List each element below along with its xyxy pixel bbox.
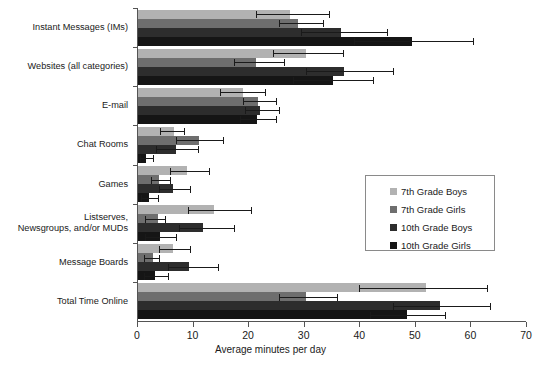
error-bar-cap — [190, 246, 191, 253]
legend-item[interactable]: 10th Grade Girls — [390, 240, 471, 251]
y-axis-tick — [133, 165, 137, 166]
chart-legend: 7th Grade Boys7th Grade Girls10th Grade … — [365, 175, 495, 251]
error-bar-cap — [293, 77, 294, 84]
error-bar-cap — [209, 168, 210, 175]
error-bar — [240, 119, 276, 120]
error-bar-cap — [370, 312, 371, 319]
category-label: Listserves, Newsgroups, and/or MUDs — [0, 212, 128, 234]
legend-label: 7th Grade Boys — [401, 186, 467, 197]
error-bar — [301, 32, 387, 33]
error-bar-cap — [387, 29, 388, 36]
bar — [137, 310, 407, 319]
error-bar-cap — [473, 38, 474, 45]
x-axis-tick-label: 10 — [173, 329, 213, 341]
error-bar-cap — [240, 116, 241, 123]
category-label: Total Time Online — [0, 296, 128, 307]
x-axis-line — [137, 321, 526, 322]
error-bar-cap — [279, 20, 280, 27]
error-bar — [160, 131, 184, 132]
error-bar — [220, 92, 264, 93]
legend-swatch-icon — [390, 188, 397, 195]
error-bar — [144, 258, 160, 259]
error-bar-cap — [165, 216, 166, 223]
error-bar-cap — [393, 68, 394, 75]
error-bar-cap — [276, 98, 277, 105]
error-bar-cap — [158, 195, 159, 202]
error-bar-cap — [170, 168, 171, 175]
category-label: Websites (all categories) — [0, 61, 128, 72]
error-bar-cap — [144, 273, 145, 280]
y-axis-line — [137, 8, 138, 321]
legend-item[interactable]: 10th Grade Boys — [390, 222, 472, 233]
error-bar-cap — [445, 312, 446, 319]
error-bar-cap — [159, 246, 160, 253]
error-bar — [176, 140, 223, 141]
error-bar-cap — [343, 50, 344, 57]
y-axis-tick — [133, 47, 137, 48]
x-axis-tick — [193, 322, 194, 327]
legend-item[interactable]: 7th Grade Girls — [390, 204, 465, 215]
x-axis-tick — [248, 322, 249, 327]
legend-swatch-icon — [390, 206, 397, 213]
legend-swatch-icon — [390, 242, 397, 249]
x-axis-tick-label: 40 — [339, 329, 379, 341]
error-bar-cap — [337, 294, 338, 301]
error-bar-cap — [220, 89, 221, 96]
error-bar — [234, 62, 284, 63]
error-bar-cap — [153, 155, 154, 162]
x-axis-tick — [304, 322, 305, 327]
error-bar — [141, 198, 158, 199]
error-bar — [306, 71, 392, 72]
error-bar — [293, 80, 374, 81]
category-label: Instant Messages (IMs) — [0, 22, 128, 33]
error-bar — [144, 276, 168, 277]
error-bar — [245, 110, 278, 111]
error-bar-cap — [188, 207, 189, 214]
error-bar-cap — [276, 116, 277, 123]
error-bar — [156, 149, 198, 150]
error-bar-cap — [354, 38, 355, 45]
error-bar-cap — [245, 107, 246, 114]
error-bar-cap — [301, 29, 302, 36]
error-bar-cap — [323, 20, 324, 27]
legend-item[interactable]: 7th Grade Boys — [390, 186, 467, 197]
x-axis-tick-label: 60 — [450, 329, 490, 341]
error-bar — [279, 297, 337, 298]
error-bar-cap — [176, 234, 177, 241]
x-axis-tick — [137, 322, 138, 327]
error-bar-cap — [145, 234, 146, 241]
x-axis-tick — [359, 322, 360, 327]
error-bar — [359, 288, 487, 289]
error-bar-cap — [144, 255, 145, 262]
error-bar-cap — [256, 11, 257, 18]
y-axis-tick — [133, 204, 137, 205]
error-bar-cap — [160, 128, 161, 135]
error-bar-cap — [156, 146, 157, 153]
error-bar — [370, 315, 445, 316]
error-bar — [393, 306, 490, 307]
error-bar — [273, 53, 342, 54]
x-axis-tick-label: 70 — [506, 329, 541, 341]
error-bar-cap — [179, 225, 180, 232]
error-bar — [140, 158, 152, 159]
error-bar — [159, 189, 190, 190]
error-bar — [279, 23, 323, 24]
error-bar-cap — [223, 137, 224, 144]
error-bar-cap — [170, 177, 171, 184]
error-bar-cap — [393, 303, 394, 310]
error-bar — [179, 228, 235, 229]
error-bar — [256, 14, 328, 15]
x-axis-tick — [415, 322, 416, 327]
error-bar — [170, 171, 209, 172]
error-bar-cap — [273, 50, 274, 57]
x-axis-tick-label: 0 — [117, 329, 157, 341]
bar — [137, 106, 260, 115]
error-bar — [145, 237, 176, 238]
x-axis-tick-label: 30 — [284, 329, 324, 341]
error-bar-cap — [373, 77, 374, 84]
error-bar-cap — [284, 59, 285, 66]
error-bar — [145, 219, 164, 220]
error-bar — [151, 180, 170, 181]
y-axis-tick — [133, 8, 137, 9]
error-bar — [243, 101, 276, 102]
